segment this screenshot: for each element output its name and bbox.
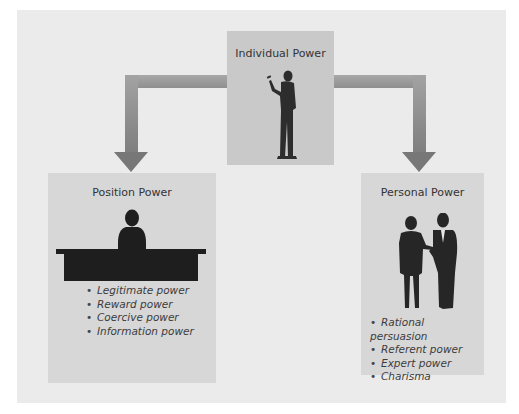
arrow-left-horizontal: [125, 75, 228, 88]
person-behind-desk-icon: [56, 209, 206, 281]
arrow-right-vertical: [413, 75, 426, 153]
position-power-list: Legitimate power Reward power Coercive p…: [86, 284, 194, 338]
individual-power-title: Individual Power: [227, 47, 334, 60]
standing-person-pointing-icon: [263, 70, 303, 160]
two-people-talking-icon: [393, 213, 463, 311]
arrow-right-head-icon: [402, 152, 436, 172]
list-item: Coercive power: [86, 311, 194, 325]
personal-power-title: Personal Power: [361, 186, 484, 199]
list-item: Referent power: [370, 343, 484, 357]
list-item: Information power: [86, 325, 194, 339]
position-power-title: Position Power: [48, 186, 216, 199]
list-item: Rational persuasion: [370, 316, 484, 343]
list-item: Charisma: [370, 370, 484, 384]
personal-power-box: Personal Power Rational persuasion Refer…: [361, 173, 484, 375]
personal-power-list: Rational persuasion Referent power Exper…: [370, 316, 484, 384]
list-item: Legitimate power: [86, 284, 194, 298]
list-item: Reward power: [86, 298, 194, 312]
position-power-box: Position Power Legitimate power Reward p…: [48, 173, 216, 383]
individual-power-box: Individual Power: [227, 31, 334, 165]
arrow-left-head-icon: [114, 152, 148, 172]
list-item: Expert power: [370, 357, 484, 371]
arrow-left-vertical: [125, 75, 138, 153]
